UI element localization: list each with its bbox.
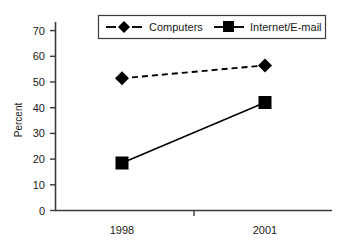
y-tick-label-50: 50 [33,76,45,88]
chart-legend: Computers Internet/E-mail [99,16,326,39]
legend-entry-internet-email[interactable]: Internet/E-mail [214,21,322,33]
data-point-internet-email-1998 [116,157,129,170]
legend-label-computers: Computers [149,21,203,33]
y-tick-label-0: 0 [39,205,45,217]
legend-label-internet-email: Internet/E-mail [250,21,322,33]
legend-square-icon [223,21,234,32]
y-tick-label-30: 30 [33,127,45,139]
data-point-internet-email-2001 [259,96,272,109]
y-tick-label-40: 40 [33,102,45,114]
y-tick-label-60: 60 [33,50,45,62]
y-tick-label-10: 10 [33,179,45,191]
chart-container: 0 10 20 30 40 50 60 70 Percent 1998 2001 [0,0,340,248]
y-tick-label-20: 20 [33,153,45,165]
line-chart: 0 10 20 30 40 50 60 70 Percent 1998 2001 [0,0,340,248]
y-tick-label-70: 70 [33,25,45,37]
y-axis-title: Percent [13,103,24,138]
x-tick-label-1998: 1998 [110,224,134,236]
x-tick-label-2001: 2001 [253,224,277,236]
